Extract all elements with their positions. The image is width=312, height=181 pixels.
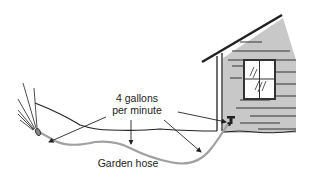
water-spray [18, 83, 37, 130]
nozzle-icon [34, 128, 41, 137]
house [202, 15, 296, 133]
hose-label: Garden hose [88, 157, 168, 169]
flow-rate-line2: per minute [102, 104, 172, 116]
flow-rate-label: 4 gallons per minute [102, 92, 172, 116]
garden-hose-diagram [0, 0, 312, 181]
flow-rate-line1: 4 gallons [102, 92, 172, 104]
window [244, 60, 275, 99]
flow-arrows [49, 112, 226, 152]
